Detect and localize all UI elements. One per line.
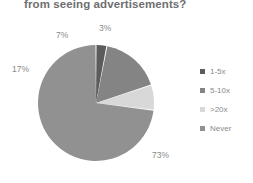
data-label-never: 73% [152,150,169,160]
data-label-5-10x: 17% [12,64,29,74]
legend-swatch-icon [200,69,205,74]
pie-chart-figure: from seeing advertisements? 3% 17% 7% 73… [0,0,253,183]
legend-item[interactable]: Never [200,119,252,138]
legend-item[interactable]: >20x [200,100,252,119]
legend-item-label: Never [210,124,231,133]
legend-swatch-icon [200,107,205,112]
data-label-1-5x: 3% [99,23,111,33]
pie-svg [34,40,160,168]
chart-title: from seeing advertisements? [24,0,224,11]
legend-item-label: >20x [210,105,228,114]
legend-item[interactable]: 5-10x [200,81,252,100]
legend-item-label: 1-5x [210,67,226,76]
pie-plot-area [34,40,160,168]
legend-swatch-icon [200,88,205,93]
legend-swatch-icon [200,126,205,131]
chart-legend: 1-5x5-10x>20xNever [200,62,252,138]
legend-item[interactable]: 1-5x [200,62,252,81]
data-label-over-20x: 7% [56,30,68,40]
legend-item-label: 5-10x [210,86,230,95]
